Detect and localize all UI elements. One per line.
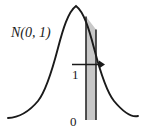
axis-origin-label: 0 <box>70 115 77 128</box>
normal-distribution-figure: N(0, 1) 1 0 <box>0 0 142 133</box>
shaded-band-region <box>86 17 96 121</box>
interval-width-label: 1 <box>72 68 79 81</box>
normal-density-curve <box>8 6 138 118</box>
distribution-label: N(0, 1) <box>11 26 51 40</box>
interval-arrow-head <box>99 61 105 69</box>
